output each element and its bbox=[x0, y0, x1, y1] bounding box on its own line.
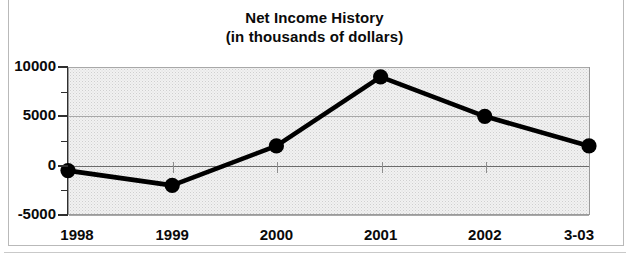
data-point-3-03 bbox=[581, 138, 596, 153]
y-tick--5000 bbox=[58, 214, 68, 216]
x-axis-label-1999: 1999 bbox=[156, 226, 189, 243]
plot-wrap: -50000500010000199819992000200120023-03 bbox=[0, 0, 629, 264]
x-axis-label-1998: 1998 bbox=[60, 226, 93, 243]
y-tick-0 bbox=[58, 165, 68, 167]
chart-figure: Net Income History (in thousands of doll… bbox=[0, 0, 629, 264]
series-line-net-income bbox=[68, 77, 589, 186]
y-axis-label--5000: -5000 bbox=[0, 205, 56, 222]
data-point-2002 bbox=[477, 109, 492, 124]
x-axis-label-2002: 2002 bbox=[468, 226, 501, 243]
data-point-2001 bbox=[373, 69, 388, 84]
y-tick-10000 bbox=[58, 66, 68, 68]
y-minor-tick-7500 bbox=[61, 92, 68, 93]
data-point-1999 bbox=[165, 178, 180, 193]
y-axis-label-10000: 10000 bbox=[0, 57, 56, 74]
x-axis-label-3-03: 3-03 bbox=[564, 226, 594, 243]
data-point-2000 bbox=[269, 138, 284, 153]
y-minor-tick-2500 bbox=[61, 141, 68, 142]
y-minor-tick--2500 bbox=[61, 190, 68, 191]
series-markers bbox=[60, 69, 596, 193]
y-tick-5000 bbox=[58, 115, 68, 117]
x-axis-label-2000: 2000 bbox=[260, 226, 293, 243]
series-line-chart bbox=[0, 0, 629, 264]
y-axis-label-5000: 5000 bbox=[0, 106, 56, 123]
y-axis-label-0: 0 bbox=[0, 156, 56, 173]
x-axis-label-2001: 2001 bbox=[364, 226, 397, 243]
